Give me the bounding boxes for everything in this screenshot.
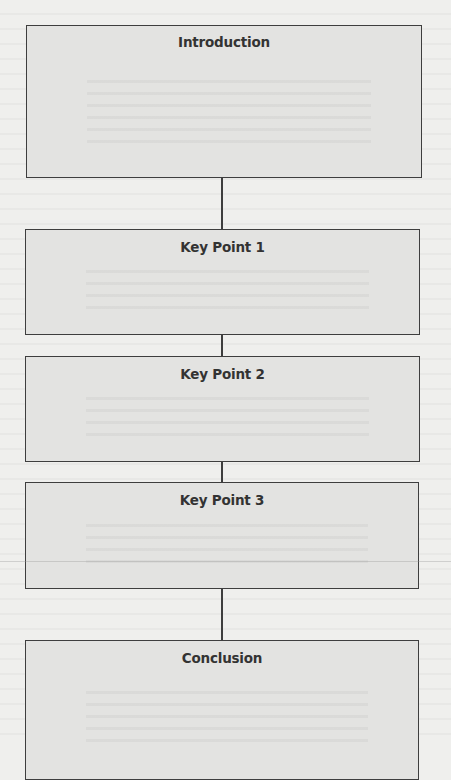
bleed-through-texture: [86, 261, 369, 313]
scan-artifact-line: [0, 561, 451, 562]
bleed-through-texture: [86, 388, 369, 440]
connector-key-point-2-key-point-3: [221, 462, 223, 482]
bleed-through-texture: [86, 682, 368, 751]
box-title-key-point-3: Key Point 3: [26, 492, 418, 508]
connector-key-point-1-key-point-2: [221, 335, 223, 356]
box-title-key-point-1: Key Point 1: [26, 239, 419, 255]
bleed-through-texture: [87, 71, 371, 147]
box-conclusion: Conclusion: [25, 640, 419, 780]
box-key-point-2: Key Point 2: [25, 356, 420, 462]
box-key-point-3: Key Point 3: [25, 482, 419, 589]
connector-introduction-key-point-1: [221, 178, 223, 229]
box-introduction: Introduction: [26, 25, 422, 178]
connector-key-point-3-conclusion: [221, 589, 223, 640]
box-key-point-1: Key Point 1: [25, 229, 420, 335]
box-title-introduction: Introduction: [27, 34, 421, 50]
bleed-through-texture: [86, 515, 368, 568]
box-title-key-point-2: Key Point 2: [26, 366, 419, 382]
box-title-conclusion: Conclusion: [26, 650, 418, 666]
